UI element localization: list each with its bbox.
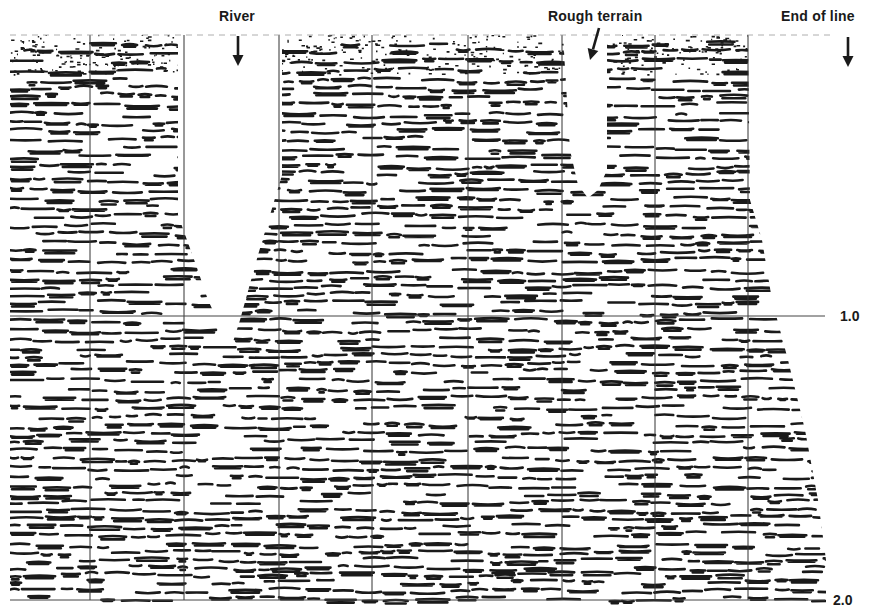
time-tick-1-0: 1.0	[840, 308, 859, 324]
label-end-of-line: End of line	[781, 8, 855, 24]
left-top-fade-zone	[0, 35, 10, 615]
seismic-wiggle-traces	[0, 0, 871, 604]
time-tick-2-0: 2.0	[833, 592, 852, 608]
label-rough-terrain: Rough terrain	[548, 8, 642, 24]
label-river: River	[219, 8, 255, 24]
rough-terrain-gap-zone	[563, 35, 607, 198]
right-taper-zone	[748, 35, 871, 615]
seismic-section	[0, 0, 871, 615]
